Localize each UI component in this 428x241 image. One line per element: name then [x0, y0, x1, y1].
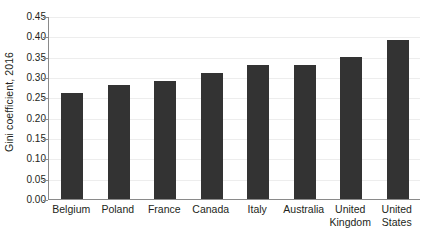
bar: [387, 40, 409, 199]
bar: [247, 65, 269, 199]
y-axis-tick-labels: 0.450.400.350.300.250.200.150.100.050.00: [16, 0, 46, 241]
y-tick-mark: [43, 159, 48, 160]
y-tick-label: 0.05: [16, 175, 46, 185]
y-tick-label: 0.30: [16, 73, 46, 83]
y-tick-label: 0.00: [16, 195, 46, 205]
y-tick-label: 0.45: [16, 12, 46, 22]
y-tick-mark: [43, 78, 48, 79]
y-tick-mark: [43, 139, 48, 140]
x-tick-label: Poland: [95, 203, 142, 216]
x-tick-label: Italy: [234, 203, 281, 216]
x-tick-label: Australia: [281, 203, 328, 216]
y-tick-mark: [43, 180, 48, 181]
x-tick-label: Belgium: [48, 203, 95, 216]
y-tick-label: 0.40: [16, 32, 46, 42]
bar: [201, 73, 223, 199]
plot-area: [48, 17, 420, 200]
y-tick-mark: [43, 17, 48, 18]
bars-layer: [49, 17, 420, 199]
y-tick-label: 0.35: [16, 53, 46, 63]
bar: [154, 81, 176, 199]
bar: [294, 65, 316, 199]
x-axis-tick-labels: BelgiumPolandFranceCanadaItalyAustraliaU…: [48, 203, 420, 241]
y-tick-label: 0.10: [16, 154, 46, 164]
x-tick-label: France: [141, 203, 188, 216]
y-tick-label: 0.25: [16, 93, 46, 103]
y-tick-label: 0.20: [16, 114, 46, 124]
y-tick-mark: [43, 200, 48, 201]
bar: [108, 85, 130, 199]
y-tick-mark: [43, 37, 48, 38]
y-tick-label: 0.15: [16, 134, 46, 144]
bar: [340, 57, 362, 199]
y-axis-title: Gini coefficient, 2016: [2, 2, 16, 202]
y-tick-mark: [43, 58, 48, 59]
x-tick-label: Canada: [188, 203, 235, 216]
y-tick-mark: [43, 119, 48, 120]
bar-chart: Gini coefficient, 2016 0.450.400.350.300…: [0, 0, 428, 241]
x-tick-label: United Kingdom: [327, 203, 374, 229]
bar: [61, 93, 83, 199]
x-tick-label: United States: [374, 203, 421, 229]
y-tick-mark: [43, 98, 48, 99]
